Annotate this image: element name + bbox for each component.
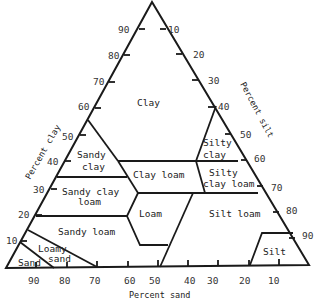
svg-text:80: 80 <box>108 50 120 61</box>
region-loam: Loam <box>139 208 162 219</box>
svg-text:80: 80 <box>286 205 298 216</box>
svg-text:90: 90 <box>302 230 314 241</box>
svg-text:60: 60 <box>78 101 90 112</box>
svg-text:70: 70 <box>89 275 101 286</box>
svg-text:40: 40 <box>184 275 196 286</box>
region-clay: Clay <box>137 97 160 108</box>
region-silty-clay-loam: clay loam <box>203 178 255 189</box>
svg-text:60: 60 <box>254 153 266 164</box>
region-silt: Silt <box>263 246 286 257</box>
svg-text:30: 30 <box>207 275 219 286</box>
region-sandy-clay: Sandy <box>77 149 106 160</box>
region-sand: Sand <box>18 257 41 268</box>
svg-text:30: 30 <box>208 75 220 86</box>
svg-text:10: 10 <box>168 24 180 35</box>
region-silty-clay-loam: Silty <box>209 167 238 178</box>
svg-text:50: 50 <box>62 131 74 142</box>
svg-text:90: 90 <box>28 275 40 286</box>
svg-text:40: 40 <box>47 156 59 167</box>
region-labels: Clay Sandy clay Silty clay Clay loam Sil… <box>18 97 286 268</box>
svg-text:10: 10 <box>268 275 280 286</box>
svg-text:20: 20 <box>239 275 251 286</box>
svg-text:20: 20 <box>18 209 30 220</box>
svg-text:80: 80 <box>59 275 71 286</box>
svg-text:60: 60 <box>124 275 136 286</box>
region-silt-loam: Silt loam <box>209 208 261 219</box>
sand-axis-title: Percent sand <box>129 290 190 300</box>
sand-axis-numbers: 90 80 70 60 50 40 30 20 10 <box>28 275 280 286</box>
clay-axis-ticks <box>21 29 145 241</box>
svg-text:20: 20 <box>193 49 205 60</box>
region-silty-clay: clay <box>203 149 226 160</box>
svg-text:70: 70 <box>271 182 283 193</box>
region-silty-clay: Silty <box>203 137 232 148</box>
svg-text:10: 10 <box>6 235 18 246</box>
svg-text:30: 30 <box>33 184 45 195</box>
svg-text:70: 70 <box>93 76 105 87</box>
svg-text:50: 50 <box>149 275 161 286</box>
region-clay-loam: Clay loam <box>133 169 185 180</box>
soil-texture-triangle: Clay Sandy clay Silty clay Clay loam Sil… <box>0 0 316 301</box>
clay-axis-numbers: 90 80 70 60 50 40 30 20 10 <box>6 24 130 246</box>
svg-text:40: 40 <box>218 101 230 112</box>
region-loamy-sand: sand <box>48 253 71 264</box>
clay-axis-title: Percent clay <box>23 123 62 181</box>
region-sandy-clay-loam: loam <box>78 196 101 207</box>
region-sandy-loam: Sandy loam <box>58 226 115 237</box>
svg-text:50: 50 <box>240 129 252 140</box>
svg-text:90: 90 <box>118 24 130 35</box>
region-sandy-clay: clay <box>82 161 105 172</box>
